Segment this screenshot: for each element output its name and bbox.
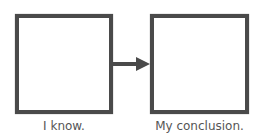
known-facts-box (15, 14, 113, 114)
conclusion-label: My conclusion. (150, 119, 249, 133)
arrow-right-icon (112, 56, 152, 72)
known-facts-label: I know. (15, 119, 113, 133)
conclusion-box (150, 14, 249, 114)
